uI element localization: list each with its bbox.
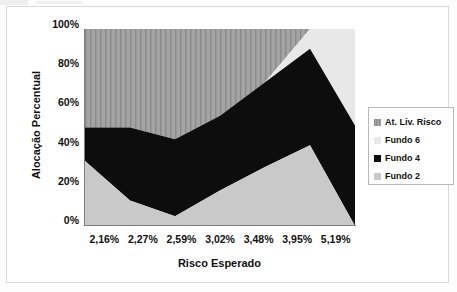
legend-item-fundo-4[interactable]: Fundo 4: [374, 149, 449, 167]
legend-item-at-liv-risco[interactable]: At. Liv. Risco: [374, 113, 449, 131]
stacked-area-chart: [85, 29, 355, 226]
x-axis-title: Risco Esperado: [77, 257, 362, 269]
x-tick-label: 3,95%: [278, 233, 317, 249]
plot-area: [85, 29, 355, 226]
legend-label: Fundo 2: [385, 171, 420, 181]
x-tick-label: 2,27%: [124, 233, 163, 249]
legend-label: At. Liv. Risco: [385, 117, 441, 127]
chart-container: Alocação Percentual 100% 80% 60% 40% 20%…: [6, 6, 449, 283]
x-tick-label: 3,48%: [239, 233, 278, 249]
y-axis-tick-labels: 100% 80% 60% 40% 20% 0%: [29, 7, 79, 292]
legend-swatch-fundo-6: [374, 137, 381, 144]
y-tick-label: 40%: [33, 137, 79, 147]
legend-label: Fundo 4: [385, 153, 420, 163]
y-tick-label: 20%: [33, 176, 79, 186]
legend-label: Fundo 6: [385, 135, 420, 145]
x-axis-tick-labels: 2,16% 2,27% 2,59% 3,02% 3,48% 3,95% 5,19…: [85, 233, 355, 249]
y-tick-label: 80%: [33, 58, 79, 68]
x-tick-label: 3,02%: [201, 233, 240, 249]
y-tick-label: 100%: [33, 19, 79, 29]
chart-legend[interactable]: At. Liv. Risco Fundo 6 Fundo 4 Fundo 2: [368, 107, 454, 185]
y-tick-label: 0%: [33, 215, 79, 225]
scan-artifact: [36, 1, 82, 4]
scanned-page: Alocação Percentual 100% 80% 60% 40% 20%…: [0, 0, 457, 292]
x-tick-label: 5,19%: [316, 233, 355, 249]
legend-item-fundo-6[interactable]: Fundo 6: [374, 131, 449, 149]
y-axis-line: [84, 29, 85, 226]
legend-item-fundo-2[interactable]: Fundo 2: [374, 167, 449, 185]
x-tick-label: 2,59%: [162, 233, 201, 249]
y-tick-label: 60%: [33, 97, 79, 107]
legend-swatch-at-liv-risco: [374, 119, 381, 126]
legend-swatch-fundo-2: [374, 173, 381, 180]
x-axis-line: [85, 225, 356, 226]
scan-artifact: [0, 0, 28, 5]
legend-swatch-fundo-4: [374, 155, 381, 162]
x-tick-label: 2,16%: [85, 233, 124, 249]
